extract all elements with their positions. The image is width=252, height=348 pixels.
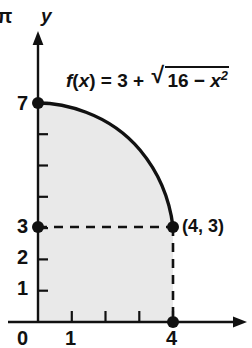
y-axis-arrow-icon	[33, 31, 44, 45]
y-tick-label-2: 2	[17, 247, 28, 267]
formula-constant: 3	[117, 70, 128, 91]
y-tick-label-7: 7	[17, 93, 28, 113]
plot-svg	[0, 0, 252, 348]
shaded-region	[38, 103, 173, 322]
formula-variable: x	[79, 70, 90, 91]
y-tick-label-1: 1	[17, 278, 28, 298]
x-tick-label-4: 4	[166, 328, 177, 348]
pi-symbol: π	[0, 6, 12, 26]
y-axis-label: y	[41, 6, 52, 25]
point-coordinate-label: (4, 3)	[182, 217, 224, 235]
point-0-3	[32, 221, 44, 233]
x-axis-arrow-icon	[233, 317, 247, 328]
formula-plus: +	[128, 70, 150, 91]
radicand-lead: 16 −	[167, 70, 210, 91]
radical-sign-icon: √	[151, 64, 164, 87]
formula-radicand: 16 − x2	[165, 66, 229, 90]
y-tick-label-3: 3	[17, 216, 28, 236]
formula-equals: =	[96, 70, 118, 91]
formula-radical: √16 − x2	[151, 66, 229, 90]
x-tick-label-0: 0	[17, 328, 28, 348]
figure-canvas: π y 7 3 2 1 0 1 4 (4, 3) f(x) = 3 + √16 …	[0, 0, 252, 348]
x-tick-label-1: 1	[65, 328, 76, 348]
function-formula: f(x) = 3 + √16 − x2	[66, 66, 229, 90]
point-4-3	[167, 221, 179, 233]
point-0-7	[32, 97, 44, 109]
radicand-variable: x	[210, 70, 221, 91]
radicand-exponent: 2	[221, 68, 228, 83]
